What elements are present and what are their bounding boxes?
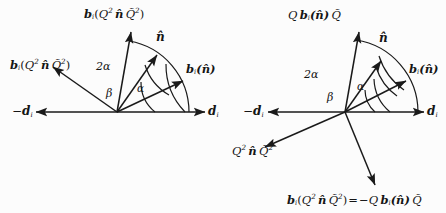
angle-label-beta-left: β xyxy=(106,87,112,100)
label-d-i-right: di xyxy=(427,104,438,119)
label-equation-right: bi(Q2 n̂ Q̃2) = −Q bi(n̂) Q̃ xyxy=(287,192,422,207)
vector-b-i-n-hat-right xyxy=(345,81,406,112)
label-Q2-n-Q2tilde-right: Q2 n̂ Q̃2 xyxy=(232,143,273,158)
label-b-i-n-hat-right: bi(n̂) xyxy=(409,62,438,76)
arc-alpha-left xyxy=(145,65,169,95)
arc-alpha-outer-right xyxy=(379,56,404,90)
label-n-hat-left: n̂ xyxy=(156,30,165,44)
angle-label-2alpha-left: 2α xyxy=(96,60,110,73)
vector-b-i-Q2-n-Q2-up-left xyxy=(117,32,131,112)
figure-vector-diagrams: bi(Q2 n̂ Q̃2) bi(Q2 n̂ Q̃2) bi(n̂) n̂ −d… xyxy=(0,0,446,213)
right-diagram xyxy=(265,32,424,185)
label-n-hat-right: n̂ xyxy=(379,31,388,45)
vector-b-i-Q2-n-Q2-eq-right xyxy=(345,112,375,185)
label-Q-b-i-n-Qtilde-right: Q bi(n̂) Q̃ xyxy=(288,8,341,22)
label-minus-d-i-left: −di xyxy=(12,104,33,119)
angle-label-alpha-right: α xyxy=(357,80,364,92)
angle-label-beta-right: β xyxy=(327,91,333,104)
label-d-i-left: di xyxy=(208,104,219,119)
label-b-i-n-hat-left: bi(n̂) xyxy=(186,62,215,76)
label-minus-d-i-right: −di xyxy=(243,104,264,119)
label-b-i-Q2-n-Q2-upperleft-left: bi(Q2 n̂ Q̃2) xyxy=(10,57,70,72)
label-b-i-Q2-n-Q2-top-left: bi(Q2 n̂ Q̃2) xyxy=(84,6,144,21)
vector-Q2-n-Q2tilde-right xyxy=(265,112,345,147)
arc-beta-right xyxy=(365,90,375,112)
angle-label-alpha-left: α xyxy=(137,82,144,94)
vector-Q-b-i-n-Qtilde-right xyxy=(345,32,359,112)
angle-label-2alpha-right: 2α xyxy=(304,68,318,81)
